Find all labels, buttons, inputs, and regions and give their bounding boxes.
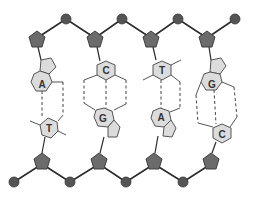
- base-pair-1: A T: [30, 47, 66, 153]
- base-pair-2: C G: [84, 47, 126, 153]
- base-pair-4: G C: [196, 47, 237, 153]
- base-label-t2: T: [159, 65, 165, 76]
- phosphate-icon: [121, 177, 131, 187]
- phosphate-icon: [65, 177, 75, 187]
- bottom-backbone: [9, 153, 219, 187]
- phosphate-icon: [61, 14, 71, 24]
- base-label-a2: A: [157, 112, 164, 123]
- sugar-icon: [34, 153, 50, 169]
- base-label-g2: G: [208, 79, 216, 90]
- base-label-g: G: [99, 113, 107, 124]
- base-label-t: T: [46, 123, 52, 134]
- sugar-icon: [91, 153, 107, 169]
- sugar-icon: [203, 153, 219, 169]
- phosphate-icon: [117, 14, 127, 24]
- phosphate-icon: [9, 177, 19, 187]
- top-backbone: [29, 14, 240, 47]
- base-label-c: C: [102, 65, 109, 76]
- sugar-icon: [146, 153, 162, 169]
- base-pair-3: T A: [143, 47, 181, 153]
- phosphate-icon: [173, 14, 183, 24]
- base-label-c2: C: [218, 129, 225, 140]
- phosphate-icon: [230, 14, 240, 24]
- phosphate-icon: [178, 177, 188, 187]
- dna-diagram: A T C G T A: [0, 0, 258, 197]
- base-label-a: A: [38, 79, 45, 90]
